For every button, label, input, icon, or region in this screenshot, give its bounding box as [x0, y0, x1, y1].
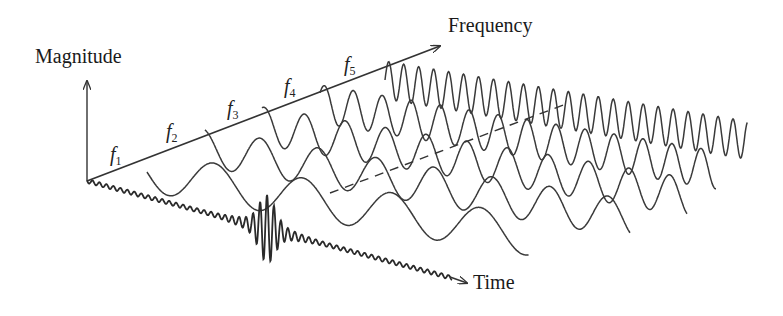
frequency-label-f4: f4 — [284, 75, 296, 101]
dashed-envelope-line — [330, 104, 566, 193]
frequency-component-waves — [147, 62, 747, 255]
frequency-component-wave-f5 — [385, 62, 747, 158]
time-axis — [450, 277, 467, 283]
frequency-label-f3: f3 — [227, 97, 239, 123]
frequency-axis-label: Frequency — [448, 14, 532, 37]
frequency-label-f1: f1 — [110, 143, 122, 169]
time-axis-label: Time — [473, 271, 515, 294]
frequency-label-f5: f5 — [344, 53, 356, 79]
frequency-component-wave-f1 — [147, 163, 529, 255]
frequency-component-wave-f4 — [320, 86, 716, 189]
magnitude-axis-label: Magnitude — [35, 45, 122, 68]
frequency-label-f2: f2 — [166, 120, 178, 146]
